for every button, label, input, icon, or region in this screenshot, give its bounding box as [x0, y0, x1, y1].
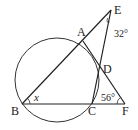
label-D: D: [103, 62, 112, 76]
label-F: F: [122, 104, 129, 118]
label-B: B: [11, 104, 19, 118]
angle-label-B: x: [33, 91, 39, 103]
label-A: A: [77, 25, 86, 39]
label-E: E: [114, 3, 121, 17]
geometry-diagram: E A D B C F 32° 56° x: [0, 0, 138, 130]
angle-arc-B: [28, 98, 31, 104]
circle: [15, 38, 99, 122]
angle-label-F: 56°: [101, 92, 115, 103]
angle-arc-F: [117, 97, 121, 104]
label-C: C: [88, 104, 96, 118]
line-EC: [92, 10, 111, 104]
angle-label-E: 32°: [114, 28, 128, 39]
